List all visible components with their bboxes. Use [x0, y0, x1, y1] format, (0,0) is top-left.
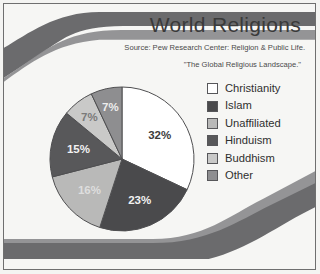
slide-frame: World Religions Source: Pew Research Cen…	[3, 3, 316, 270]
page-title: World Religions	[150, 13, 301, 37]
legend-swatch	[207, 170, 218, 181]
pie-slice-label: 7%	[81, 111, 98, 123]
legend-item-label: Buddhism	[225, 153, 275, 164]
legend-item[interactable]: Buddhism	[207, 150, 315, 167]
pie-slice-label: 23%	[128, 194, 151, 206]
legend-swatch	[207, 101, 218, 112]
pie-chart-svg: 32%23%16%15%7%7%	[46, 84, 198, 234]
pie-slice-label: 16%	[78, 184, 101, 196]
legend-item[interactable]: Hinduism	[207, 132, 315, 149]
legend-item[interactable]: Unaffiliated	[207, 115, 315, 132]
legend-item-label: Hinduism	[225, 135, 272, 146]
pie-slice-label: 15%	[67, 143, 90, 155]
legend-item-label: Other	[225, 170, 253, 181]
chart-legend: ChristianityIslamUnaffiliatedHinduismBud…	[207, 80, 315, 184]
pie-chart: 32%23%16%15%7%7%	[46, 84, 198, 234]
legend-item-label: Christianity	[225, 83, 280, 94]
legend-item-label: Unaffiliated	[225, 118, 281, 129]
legend-item[interactable]: Islam	[207, 97, 315, 114]
source-line-2: "The Global Religious Landscape."	[184, 60, 301, 69]
legend-swatch	[207, 135, 218, 146]
legend-item[interactable]: Christianity	[207, 80, 315, 97]
source-line-1: Source: Pew Research Center: Religion & …	[124, 43, 305, 52]
legend-swatch	[207, 118, 218, 129]
legend-item[interactable]: Other	[207, 167, 315, 184]
legend-swatch	[207, 83, 218, 94]
pie-slice-label: 7%	[102, 101, 119, 113]
legend-swatch	[207, 153, 218, 164]
legend-item-label: Islam	[225, 100, 252, 111]
slide-canvas: World Religions Source: Pew Research Cen…	[0, 0, 320, 274]
pie-slice-label: 32%	[148, 129, 171, 141]
